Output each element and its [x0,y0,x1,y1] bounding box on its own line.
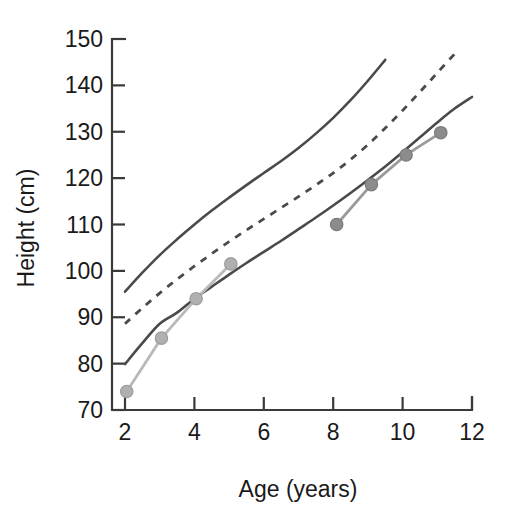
y-tick-label: 70 [77,397,103,423]
chart-canvas: 708090100110120130140150 24681012 Age (y… [0,0,509,510]
y-tick-label: 110 [66,212,103,238]
data-point-marker[interactable] [190,293,202,305]
y-axis-tick-labels: 708090100110120130140150 [65,26,103,423]
x-tick-label: 10 [390,419,416,445]
x-tick-label: 6 [257,419,270,445]
series-1 [125,54,455,324]
reference-curve [125,54,455,324]
data-point-marker[interactable] [121,385,133,397]
x-tick-label: 12 [459,419,485,445]
axis-group [112,39,472,410]
data-point-marker[interactable] [330,218,342,230]
y-tick-label: 120 [65,165,103,191]
data-point-marker[interactable] [435,126,447,138]
data-point-marker[interactable] [365,178,377,190]
y-tick-label: 130 [65,119,103,145]
data-point-marker[interactable] [155,332,167,344]
y-axis-title: Height (cm) [13,169,39,288]
x-tick-label: 4 [188,419,201,445]
data-point-marker[interactable] [400,149,412,161]
y-tick-label: 140 [65,72,103,98]
axis-lines [112,39,472,410]
data-series-group [121,54,472,398]
series-2 [125,97,472,364]
y-tick-label: 150 [65,26,103,52]
growth-chart: 708090100110120130140150 24681012 Age (y… [0,0,509,510]
x-axis-ticks [125,397,472,410]
reference-curve [125,97,472,364]
x-axis-tick-labels: 24681012 [119,419,485,445]
series-4 [330,126,446,230]
x-axis-title: Age (years) [239,476,358,502]
x-tick-label: 8 [327,419,340,445]
data-point-marker[interactable] [225,258,237,270]
y-tick-label: 90 [77,304,103,330]
y-tick-label: 100 [65,258,103,284]
y-tick-label: 80 [77,351,103,377]
y-axis-ticks [112,39,125,410]
x-tick-label: 2 [119,419,132,445]
data-line [337,133,441,225]
